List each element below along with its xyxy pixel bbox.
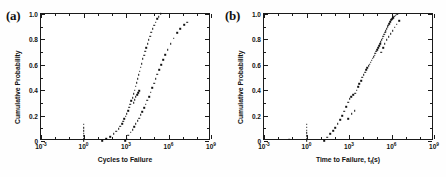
y-tick-minor — [264, 103, 266, 104]
x-axis-title-b: Time to Failure, tf(s) — [263, 156, 433, 163]
data-point — [113, 133, 115, 135]
y-tick-label: 0.6 — [29, 61, 38, 68]
data-point — [134, 89, 136, 91]
x-tick-minor — [183, 137, 184, 139]
data-point — [158, 16, 160, 18]
x-tick-minor — [69, 14, 70, 16]
data-point — [148, 96, 150, 98]
data-point — [376, 51, 378, 53]
data-point — [136, 82, 138, 84]
data-point — [348, 101, 350, 103]
data-point — [306, 127, 308, 129]
data-point — [101, 140, 103, 142]
x-tick-bottom — [392, 135, 393, 139]
data-point — [109, 136, 111, 138]
data-point — [383, 35, 385, 37]
y-tick-left — [264, 141, 268, 142]
data-point — [145, 47, 147, 49]
data-point — [382, 37, 384, 39]
x-tick-minor — [292, 14, 293, 16]
x-tick-minor — [55, 137, 56, 139]
y-tick-right — [205, 65, 209, 66]
data-point — [384, 32, 386, 34]
x-tick-label: 109 — [429, 143, 439, 150]
x-tick-minor — [335, 14, 336, 16]
y-tick-label: 0.8 — [29, 36, 38, 43]
data-point — [142, 111, 144, 113]
data-point — [148, 39, 150, 41]
x-tick-bottom — [264, 135, 265, 139]
data-point — [378, 45, 380, 47]
data-point — [122, 121, 124, 123]
y-tick-minor — [41, 52, 43, 53]
data-point — [327, 137, 329, 139]
plot-area-b: 10-310010310610900.20.40.60.81.0 — [263, 13, 433, 140]
x-tick-label: 100 — [79, 143, 89, 150]
x-tick-minor — [406, 14, 407, 16]
data-point — [120, 126, 122, 128]
y-tick-label: 0.4 — [252, 87, 261, 94]
data-point — [136, 94, 138, 96]
data-point — [363, 74, 365, 76]
data-point — [306, 140, 308, 142]
x-tick-minor — [377, 137, 378, 139]
data-point — [365, 69, 367, 71]
panel-a-label: (a) — [6, 8, 20, 24]
data-point — [156, 18, 158, 20]
data-point — [105, 138, 107, 140]
data-point — [155, 21, 157, 23]
data-point — [155, 78, 157, 80]
data-point — [380, 41, 382, 43]
x-tick-minor — [197, 14, 198, 16]
x-tick-minor — [140, 14, 141, 16]
x-tick-minor — [98, 137, 99, 139]
data-point — [345, 106, 347, 108]
data-point — [133, 102, 135, 104]
y-tick-minor — [41, 128, 43, 129]
data-point — [153, 82, 155, 84]
y-tick-minor — [207, 128, 209, 129]
data-point — [138, 74, 140, 76]
data-point — [140, 114, 142, 116]
y-tick-left — [264, 65, 268, 66]
data-point — [306, 129, 308, 131]
data-point — [83, 135, 85, 137]
y-tick-left — [264, 116, 268, 117]
y-tick-right — [205, 14, 209, 15]
x-tick-top — [84, 14, 85, 18]
data-point — [375, 53, 377, 55]
data-point — [162, 59, 164, 61]
data-point — [390, 33, 392, 35]
x-tick-top — [434, 14, 435, 18]
data-point — [383, 34, 385, 36]
data-point — [306, 124, 308, 126]
data-point — [306, 138, 308, 140]
data-point — [167, 49, 169, 51]
data-point — [150, 91, 152, 93]
data-point — [351, 113, 353, 115]
y-tick-left — [264, 39, 268, 40]
x-tick-label: 103 — [344, 143, 354, 150]
y-tick-label: 0.4 — [29, 87, 38, 94]
x-tick-minor — [98, 14, 99, 16]
data-point — [183, 24, 185, 26]
x-tick-minor — [420, 14, 421, 16]
data-point — [130, 132, 132, 134]
data-point — [359, 83, 361, 85]
data-point — [127, 110, 129, 112]
y-tick-label: 0.2 — [29, 112, 38, 119]
x-tick-label: 103 — [121, 143, 131, 150]
x-tick-bottom — [41, 135, 42, 139]
x-tick-minor — [363, 14, 364, 16]
x-tick-minor — [154, 137, 155, 139]
x-tick-minor — [183, 14, 184, 16]
data-point — [116, 131, 118, 133]
data-point — [126, 137, 128, 139]
x-tick-label: 106 — [387, 143, 397, 150]
x-tick-bottom — [349, 135, 350, 139]
data-point — [141, 63, 143, 65]
data-point — [83, 130, 85, 132]
data-point — [176, 32, 178, 34]
data-point — [343, 110, 345, 112]
data-point — [138, 117, 140, 119]
